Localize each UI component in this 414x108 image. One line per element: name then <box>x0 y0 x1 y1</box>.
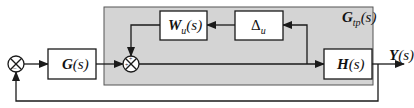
block-H-label: H(s) <box>337 57 365 72</box>
plant-region-label: Gtp(s) <box>342 10 376 28</box>
block-delta-label: Δu <box>251 18 266 36</box>
output-label: Y(s) <box>389 48 414 63</box>
block-G-label: G(s) <box>62 57 89 72</box>
outer-sum-minus-sign: − <box>13 65 17 73</box>
block-W-label: Wu(s) <box>168 18 202 36</box>
